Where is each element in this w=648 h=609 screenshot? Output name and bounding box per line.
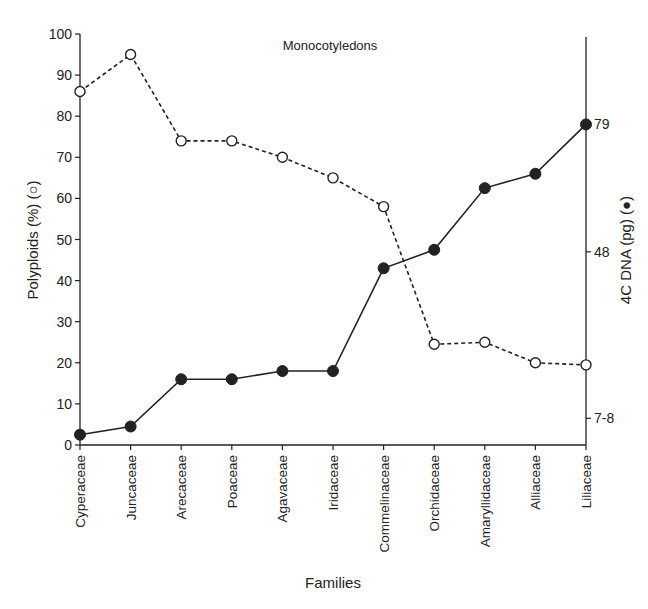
filled-circle-marker	[378, 263, 389, 274]
open-circle-marker	[581, 360, 591, 370]
x-category-label: Poaceae	[225, 455, 240, 508]
filled-circle-marker	[530, 168, 541, 179]
x-category-label: Liliaceae	[579, 455, 594, 508]
open-circle-marker	[227, 136, 237, 146]
y-tick-label: 0	[64, 437, 72, 453]
axes: 010203040506070809010079487-8CyperaceaeJ…	[49, 26, 615, 553]
open-circle-marker	[176, 136, 186, 146]
open-circle-marker	[530, 358, 540, 368]
x-category-label: Iridaceae	[326, 455, 341, 511]
x-category-label: Arecaceae	[174, 455, 189, 520]
x-category-label: Alliaceae	[528, 455, 543, 510]
open-circle-marker	[75, 87, 85, 97]
dna-line	[80, 124, 586, 434]
x-category-label: Agavaceae	[275, 455, 290, 523]
x-category-label: Juncaceae	[124, 455, 139, 520]
y-tick-label: 90	[56, 67, 72, 83]
y-tick-label: 20	[56, 355, 72, 371]
open-circle-marker	[277, 152, 287, 162]
y-tick-label: 10	[56, 396, 72, 412]
y-tick-label: 70	[56, 149, 72, 165]
x-category-label: Commelinaceae	[377, 455, 392, 553]
y-tick-label: 60	[56, 190, 72, 206]
y-right-tick-label: 48	[594, 244, 610, 260]
open-circle-marker	[328, 173, 338, 183]
y-tick-label: 30	[56, 314, 72, 330]
y-axis-title-left: Polyploids (%) (○)	[24, 180, 41, 299]
y-right-tick-label: 7-8	[594, 410, 614, 426]
open-circle-marker	[429, 339, 439, 349]
filled-circle-marker	[75, 429, 86, 440]
polyploid-line	[80, 55, 586, 365]
filled-circle-marker	[429, 244, 440, 255]
x-category-label: Cyperaceae	[73, 455, 88, 528]
chart: 010203040506070809010079487-8CyperaceaeJ…	[0, 0, 648, 609]
filled-circle-marker	[176, 374, 187, 385]
filled-circle-marker	[226, 374, 237, 385]
y-axis-title-right: 4C DNA (pg) (●)	[617, 196, 634, 304]
filled-circle-marker	[581, 119, 592, 130]
open-circle-marker	[379, 202, 389, 212]
x-axis-title: Families	[305, 574, 361, 591]
y-tick-label: 80	[56, 108, 72, 124]
x-category-label: Orchidaceae	[427, 455, 442, 532]
filled-circle-marker	[125, 421, 136, 432]
open-circle-marker	[126, 50, 136, 60]
y-tick-label: 40	[56, 273, 72, 289]
filled-circle-marker	[277, 366, 288, 377]
y-tick-label: 50	[56, 232, 72, 248]
filled-circle-marker	[479, 183, 490, 194]
y-right-tick-label: 79	[594, 116, 610, 132]
x-category-label: Amaryllidaceae	[478, 455, 493, 547]
data-lines	[80, 55, 586, 435]
y-tick-label: 100	[49, 26, 73, 42]
data-points	[75, 50, 592, 441]
open-circle-marker	[480, 337, 490, 347]
filled-circle-marker	[328, 366, 339, 377]
chart-title: Monocotyledons	[283, 38, 378, 53]
